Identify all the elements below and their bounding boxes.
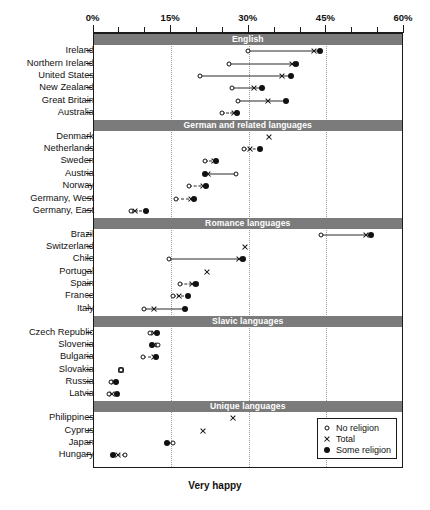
mark-total bbox=[246, 146, 253, 153]
x-tick-minor bbox=[351, 27, 352, 32]
mark-no-religion bbox=[109, 380, 114, 385]
mark-no-religion bbox=[128, 208, 133, 213]
mark-no-religion bbox=[123, 453, 128, 458]
mark-no-religion bbox=[318, 232, 323, 237]
category-label: Czech Republic bbox=[29, 327, 94, 337]
x-tick-major bbox=[170, 25, 171, 32]
x-tick-minor bbox=[222, 27, 223, 32]
mark-no-religion bbox=[219, 110, 224, 115]
group-band-german-and-related-languages: German and related languages bbox=[94, 120, 403, 131]
category-tick bbox=[86, 234, 92, 235]
mark-some-religion bbox=[143, 208, 149, 214]
category-tick bbox=[86, 160, 92, 161]
legend-label: Some religion bbox=[336, 445, 391, 455]
mark-no-religion bbox=[246, 49, 251, 54]
category-tick bbox=[86, 283, 92, 284]
chart-legend: No religionTotalSome religion bbox=[317, 418, 397, 459]
category-tick bbox=[86, 430, 92, 431]
mark-no-religion bbox=[230, 86, 235, 91]
category-tick bbox=[86, 344, 92, 345]
mark-total bbox=[200, 427, 207, 434]
mark-no-religion bbox=[227, 61, 232, 66]
mark-no-religion bbox=[141, 355, 146, 360]
mark-no-religion bbox=[107, 392, 112, 397]
range-connector bbox=[248, 51, 320, 52]
mark-total bbox=[278, 72, 285, 79]
mark-no-religion bbox=[197, 73, 202, 78]
mark-total bbox=[362, 231, 369, 238]
mark-some-religion bbox=[164, 440, 170, 446]
mark-total bbox=[150, 354, 157, 361]
x-tick-label: 0% bbox=[86, 12, 100, 23]
range-connector bbox=[229, 63, 296, 64]
x-tick-minor bbox=[300, 27, 301, 32]
mark-total bbox=[231, 109, 238, 116]
x-tick-major bbox=[325, 25, 326, 32]
legend-marker bbox=[324, 425, 329, 430]
mark-total bbox=[115, 452, 122, 459]
mark-no-religion bbox=[171, 440, 176, 445]
mark-some-religion bbox=[288, 73, 294, 79]
category-tick bbox=[86, 356, 92, 357]
range-connector bbox=[238, 100, 286, 101]
legend-label: Total bbox=[336, 434, 355, 444]
group-band-slavic-languages: Slavic languages bbox=[94, 316, 403, 327]
mark-no-religion bbox=[155, 343, 160, 348]
mark-some-religion bbox=[259, 85, 265, 91]
mark-no-religion bbox=[236, 98, 241, 103]
category-tick bbox=[86, 369, 92, 370]
category-tick bbox=[86, 87, 92, 88]
x-tick-minor bbox=[274, 27, 275, 32]
category-tick bbox=[86, 185, 92, 186]
open-circle-icon bbox=[322, 422, 333, 433]
category-tick bbox=[86, 332, 92, 333]
category-label: Germany, West bbox=[30, 193, 94, 203]
mark-no-religion bbox=[167, 257, 172, 262]
mark-no-religion bbox=[187, 184, 192, 189]
category-tick bbox=[86, 63, 92, 64]
category-tick bbox=[86, 136, 92, 137]
range-connector bbox=[169, 259, 242, 260]
chart-figure: 0%15%30%45%60% EnglishGerman and related… bbox=[0, 0, 430, 510]
group-band-english: English bbox=[94, 34, 403, 45]
plot-area: EnglishGerman and related languagesRoman… bbox=[93, 33, 404, 468]
x-tick-label: 45% bbox=[316, 12, 335, 23]
category-tick bbox=[86, 308, 92, 309]
category-tick bbox=[86, 271, 92, 272]
legend-marker bbox=[324, 447, 330, 453]
category-tick bbox=[86, 100, 92, 101]
mark-total bbox=[310, 48, 317, 55]
legend-entry: Total bbox=[322, 433, 391, 444]
x-axis-title: Very happy bbox=[0, 480, 430, 491]
mark-total bbox=[150, 305, 157, 312]
category-tick bbox=[86, 198, 92, 199]
category-label: Northern Ireland bbox=[27, 58, 94, 68]
legend-marker bbox=[323, 435, 330, 442]
mark-no-religion bbox=[118, 367, 123, 372]
category-tick bbox=[86, 112, 92, 113]
legend-label: No religion bbox=[336, 423, 379, 433]
mark-total bbox=[265, 97, 272, 104]
x-tick-major bbox=[403, 25, 404, 32]
category-tick bbox=[86, 442, 92, 443]
mark-total bbox=[241, 244, 248, 251]
x-tick-major bbox=[248, 25, 249, 32]
category-tick bbox=[86, 246, 92, 247]
mark-no-religion bbox=[174, 196, 179, 201]
mark-total bbox=[188, 281, 195, 288]
mark-no-religion bbox=[233, 171, 238, 176]
group-band-romance-languages: Romance languages bbox=[94, 218, 403, 229]
category-tick bbox=[86, 210, 92, 211]
category-tick bbox=[86, 148, 92, 149]
category-tick bbox=[86, 393, 92, 394]
filled-circle-icon bbox=[322, 444, 333, 455]
mark-no-religion bbox=[202, 159, 207, 164]
mark-total bbox=[265, 133, 272, 140]
category-tick bbox=[86, 417, 92, 418]
mark-some-religion bbox=[182, 306, 188, 312]
mark-total bbox=[187, 195, 194, 202]
category-tick bbox=[86, 173, 92, 174]
mark-total bbox=[236, 256, 243, 263]
mark-no-religion bbox=[241, 147, 246, 152]
x-tick-major bbox=[93, 25, 94, 32]
